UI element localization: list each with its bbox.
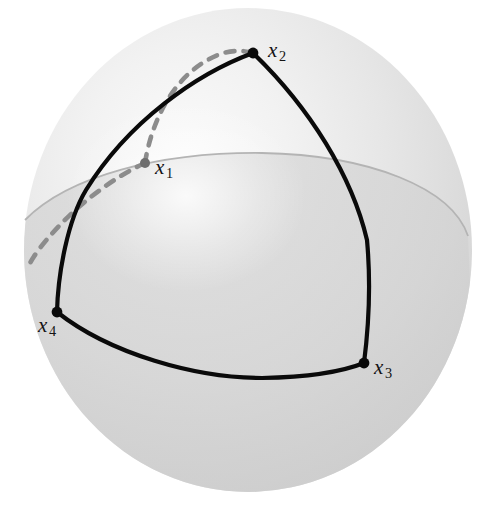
vertex-marker-x2 — [248, 48, 259, 59]
vertex-label-x4-base: x — [38, 313, 48, 337]
vertex-marker-x3 — [359, 358, 370, 369]
vertex-marker-x1 — [140, 158, 150, 168]
vertex-label-x3: x3 — [374, 357, 392, 380]
vertex-label-x4: x4 — [38, 315, 56, 338]
vertex-label-x2-sub: 2 — [278, 48, 287, 64]
vertex-label-x3-base: x — [374, 355, 384, 379]
sphere-highlight — [66, 100, 306, 292]
vertex-label-x2: x2 — [268, 40, 286, 63]
vertex-label-x3-sub: 3 — [384, 365, 393, 381]
vertex-label-x1-base: x — [155, 155, 165, 179]
vertex-label-x4-sub: 4 — [48, 323, 57, 339]
vertex-label-x2-base: x — [268, 38, 278, 62]
spherical-geometry-figure: x1 x2 x3 x4 — [0, 0, 503, 515]
vertex-label-x1-sub: 1 — [165, 165, 174, 181]
vertex-label-x1: x1 — [155, 157, 173, 180]
sphere-diagram — [0, 0, 503, 515]
